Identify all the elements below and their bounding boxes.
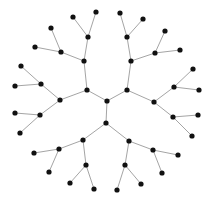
tree-node [12,110,17,115]
tree-node [81,58,86,63]
tree-node [189,133,194,138]
tree-node [124,87,129,92]
tree-node [32,44,37,49]
tree-node [162,28,167,33]
tree-node [124,34,129,39]
tree-node [150,147,155,152]
tree-node [175,152,180,157]
tree-node [122,162,127,167]
tree-node [48,25,53,30]
tree-node [151,99,156,104]
tree-node [17,130,22,135]
tree-node [177,47,182,52]
tree-node [38,81,43,86]
tree-node [58,49,63,54]
tree-node [83,162,88,167]
tree-node [190,66,195,71]
tree-node [159,170,164,175]
tree-node [128,58,133,63]
tree-node [56,146,61,151]
tree-node [84,87,89,92]
tree-node [138,181,143,186]
radial-tree-diagram [0,0,212,201]
tree-node [114,187,119,192]
tree-node [57,97,62,102]
tree-node [67,180,72,185]
tree-node [31,150,36,155]
tree-node [117,10,122,15]
tree-node [12,83,17,88]
tree-node [85,34,90,39]
tree-node [103,120,108,125]
tree-node [170,114,175,119]
tree-node [195,112,200,117]
tree-node [46,169,51,174]
tree-node [80,137,85,142]
tree-node [152,50,157,55]
tree-node [18,63,23,68]
tree-node [37,112,42,117]
tree-node [93,9,98,14]
tree-node [171,84,176,89]
tree-node [70,14,75,19]
tree-node [140,16,145,21]
tree-node [91,186,96,191]
tree-root-node [104,98,109,103]
tree-node [196,87,201,92]
tree-node [126,138,131,143]
